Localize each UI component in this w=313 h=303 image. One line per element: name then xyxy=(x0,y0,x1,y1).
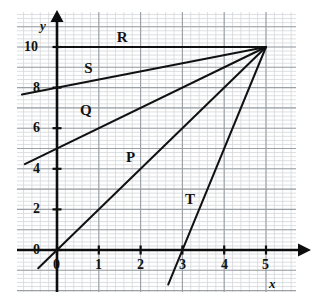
y-tick-label-8: 8 xyxy=(33,81,40,95)
line-label-s: S xyxy=(84,61,92,76)
graph-figure: y x 10 8 6 4 2 0 0 1 2 3 4 5 R S Q P T xyxy=(0,0,313,303)
y-tick-label-6: 6 xyxy=(33,121,40,135)
line-label-q: Q xyxy=(80,103,92,118)
x-tick-label-2: 2 xyxy=(137,258,144,272)
x-tick-label-0: 0 xyxy=(53,258,60,272)
y-tick-label-4: 4 xyxy=(33,162,40,176)
line-label-p: P xyxy=(126,150,135,165)
x-tick-label-4: 4 xyxy=(221,258,228,272)
line-label-t: T xyxy=(185,192,195,207)
line-label-r: R xyxy=(117,30,128,45)
y-tick-label-10: 10 xyxy=(24,40,38,54)
x-tick-label-3: 3 xyxy=(179,258,186,272)
y-tick-label-2: 2 xyxy=(33,202,40,216)
y-tick-label-0: 0 xyxy=(33,243,40,257)
x-tick-label-1: 1 xyxy=(95,258,102,272)
x-tick-label-5: 5 xyxy=(262,258,269,272)
y-axis-label: y xyxy=(40,19,46,32)
x-axis-label: x xyxy=(269,277,276,290)
